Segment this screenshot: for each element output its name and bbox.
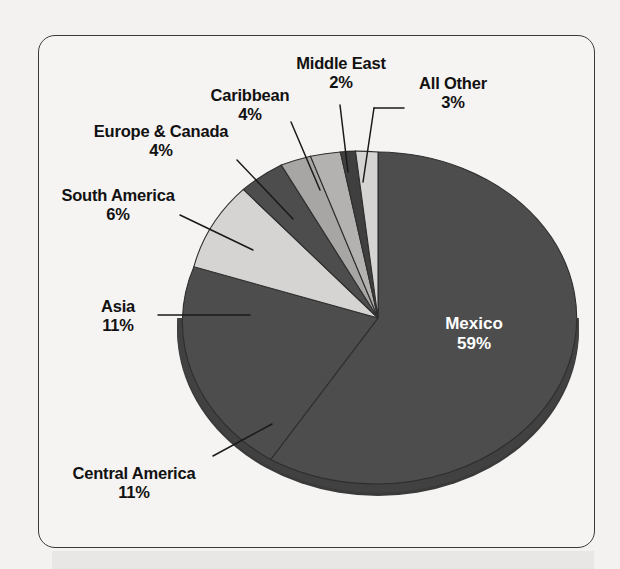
slice-label-asia-name: Asia [90,297,146,316]
slice-label-all-other-name: All Other [400,74,506,93]
slice-label-asia-percent: 11% [90,316,146,335]
slice-label-all-other-percent: 3% [400,93,506,112]
pie-chart-figure: Middle East 2% All Other 3% Caribbean 4%… [0,0,620,569]
slice-label-central-america-name: Central America [58,464,210,483]
slice-label-central-america-percent: 11% [58,483,210,502]
slice-label-caribbean-name: Caribbean [202,86,298,105]
slice-label-south-america-name: South America [54,186,182,205]
slice-label-south-america-percent: 6% [54,205,182,224]
slice-label-caribbean: Caribbean 4% [202,86,298,124]
slice-label-middle-east-name: Middle East [277,54,405,73]
slice-label-europe-canada: Europe & Canada 4% [86,122,236,160]
slice-label-europe-canada-percent: 4% [86,141,236,160]
slice-label-asia: Asia 11% [90,297,146,335]
slice-label-mexico-percent: 59% [419,334,529,354]
slice-label-mexico: Mexico 59% [419,314,529,355]
slice-label-mexico-name: Mexico [419,314,529,334]
slice-label-central-america: Central America 11% [58,464,210,502]
slice-label-europe-canada-name: Europe & Canada [86,122,236,141]
slice-label-all-other: All Other 3% [400,74,506,112]
slice-label-south-america: South America 6% [54,186,182,224]
